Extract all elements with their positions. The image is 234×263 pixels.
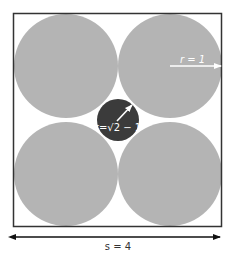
- small-radius-label: r=√2 − 1: [95, 122, 141, 133]
- large-circle-top-left: [14, 14, 118, 118]
- large-radius-label: r = 1: [180, 54, 205, 65]
- large-circle-bottom-left: [14, 122, 118, 226]
- large-circle-bottom-right: [118, 122, 222, 226]
- circle-packing-diagram: r = 1 r=√2 − 1 s = 4: [0, 0, 234, 263]
- side-length-label: s = 4: [105, 241, 131, 252]
